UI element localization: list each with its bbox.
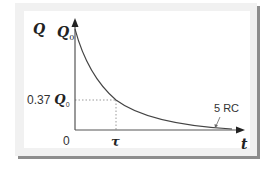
decay-curve [75, 29, 232, 129]
annotation-5rc: 5 RC [214, 102, 239, 114]
origin-label: 0 [63, 134, 70, 148]
y-axis-label: Q [33, 21, 45, 37]
mid-value-label: 0.37Q0 [27, 92, 70, 108]
x-axis-label: t [241, 136, 248, 152]
x-axis-arrow-icon [236, 127, 245, 134]
y-axis-arrow-icon [72, 18, 79, 27]
annotation-pointer [216, 117, 220, 126]
tau-label: τ [111, 134, 120, 149]
exponential-decay-chart: Q Q0 0.37Q0 0 τ t 5 RC [0, 0, 269, 171]
